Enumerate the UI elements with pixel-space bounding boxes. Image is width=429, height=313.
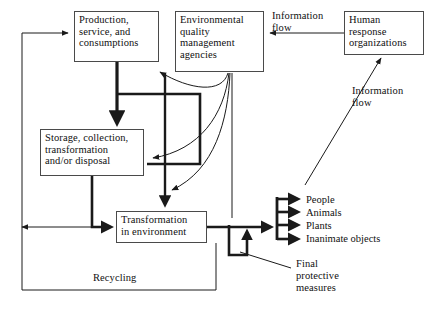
node-production[interactable]: Production, service, and consumptions [74,11,159,62]
node-human-response-organizations[interactable]: Human response organizations [344,11,424,55]
diagram-canvas: Production, service, and consumptions En… [0,0,429,313]
label-receptor-people: People [306,194,335,206]
flow-info-to-human-response [305,58,381,185]
leader-final-protective-measures [240,252,291,268]
node-environmental-quality-management-agencies[interactable]: Environmental quality management agencie… [175,11,264,72]
flow-storage-to-transformation [92,176,110,227]
receptor-fan [277,197,297,240]
node-storage-collection-transformation-disposal[interactable]: Storage, collection, transformation and/… [40,129,144,176]
label-recycling: Recycling [93,272,136,284]
node-transformation-in-environment[interactable]: Transformation in environment [116,211,207,243]
flow-agencies-to-production [160,72,228,87]
label-final-protective-measures: Final protective measures [296,258,339,293]
label-information-flow-right: Information flow [352,85,403,109]
label-information-flow-top: Information flow [272,10,323,34]
label-receptor-plants: Plants [306,220,332,232]
label-receptor-animals: Animals [306,207,342,219]
flow-final-protective-measures [229,225,247,255]
label-receptor-inanimate-objects: Inanimate objects [306,233,380,245]
